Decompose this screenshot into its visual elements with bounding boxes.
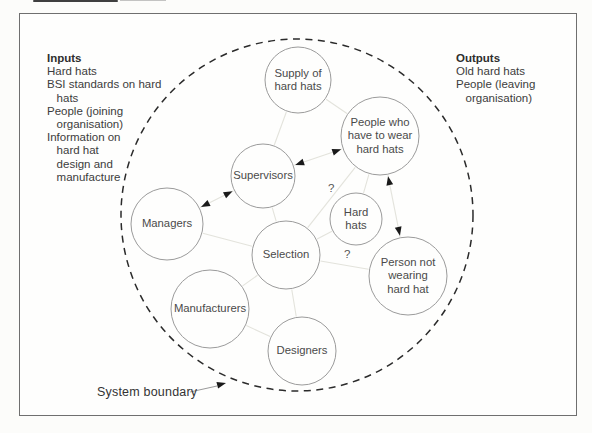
node-circle-hard-hats — [330, 193, 382, 245]
outputs-list: Outputs Old hard hatsPeople (leaving org… — [456, 52, 535, 105]
node-circle-designers — [268, 317, 336, 385]
arrowhead-into-people-who-wear — [332, 149, 342, 155]
outputs-lines: Old hard hatsPeople (leaving organisatio… — [456, 65, 535, 105]
node-circle-people-who-wear — [341, 97, 419, 175]
edge-selection-manufacturers — [243, 275, 258, 286]
arrowhead-into-person-not-wearing — [395, 226, 402, 235]
question-mark-2: ? — [344, 248, 350, 260]
inputs-list: Inputs Hard hatsBSI standards on hard ha… — [47, 52, 161, 184]
outputs-line-3: organisation) — [456, 92, 535, 105]
arrowhead-into-supervisors — [295, 159, 305, 165]
inputs-line-4: People (joining — [47, 105, 161, 118]
inputs-line-8: design and — [47, 158, 161, 171]
inputs-line-5: organisation) — [47, 118, 161, 131]
arrowhead-into-supervisors — [223, 191, 233, 198]
node-circle-manufacturers — [171, 270, 249, 348]
outputs-title: Outputs — [456, 52, 535, 65]
outputs-line-1: Old hard hats — [456, 65, 535, 78]
edge-selection-hard-hats — [317, 231, 332, 239]
edge-supervisors-selection — [272, 208, 276, 222]
edge-selection-designers — [292, 290, 296, 317]
inputs-line-7: hard hat — [47, 144, 161, 157]
scanned-figure-page: ?? Inputs Hard hatsBSI standards on hard… — [0, 0, 592, 433]
outputs-line-2: People (leaving — [456, 78, 535, 91]
question-mark-1: ? — [328, 182, 334, 194]
node-circle-managers — [131, 188, 203, 260]
inputs-line-3: hats — [47, 92, 161, 105]
edge-hard-hats-people-who-wear — [363, 174, 368, 193]
node-circle-selection — [252, 221, 320, 289]
arrowhead-into-people-who-wear — [386, 176, 393, 185]
node-circle-supervisors — [231, 144, 295, 208]
inputs-lines: Hard hatsBSI standards on hard hatsPeopl… — [47, 65, 161, 184]
boundary-pointer-arrowhead — [216, 382, 226, 389]
edge-selection-person-not-wearing — [320, 261, 368, 269]
system-boundary-label: System boundary — [97, 385, 197, 399]
inputs-title: Inputs — [47, 52, 161, 65]
inputs-line-9: manufacture — [47, 171, 161, 184]
arrowhead-into-managers — [201, 200, 211, 207]
edge-managers-selection — [203, 233, 252, 246]
inputs-line-6: Information on — [47, 131, 161, 144]
edge-manufacturers-designers — [246, 326, 270, 337]
node-circle-supply-of-hard-hats — [265, 47, 331, 113]
inputs-line-1: Hard hats — [47, 65, 161, 78]
inputs-line-2: BSI standards on hard — [47, 78, 161, 91]
scan-artifact-dark — [33, 0, 118, 2]
scan-artifact-light — [120, 0, 166, 1]
edge-supply-of-hard-hats-people-who-wear — [326, 99, 347, 113]
node-circle-person-not-wearing — [369, 237, 447, 315]
edge-supply-of-hard-hats-supervisors — [274, 112, 286, 145]
